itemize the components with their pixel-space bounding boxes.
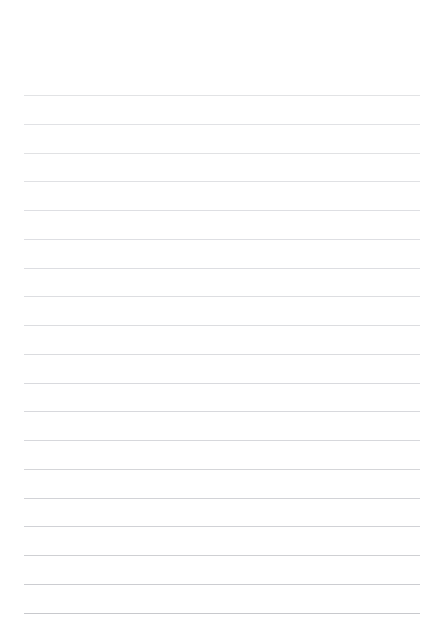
writing-area[interactable] (0, 0, 442, 642)
lined-paper-page (0, 0, 442, 642)
